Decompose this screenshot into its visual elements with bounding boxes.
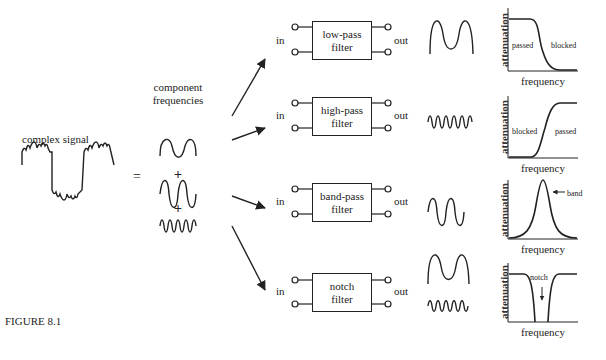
low-pass-out-label: out: [394, 34, 408, 47]
band-pass-filter-box: band-pass filter: [312, 183, 372, 222]
notch-ylabel: attenuation: [498, 257, 510, 327]
output-wave-notch-high: [428, 301, 468, 312]
output-wave-band-pass: [428, 199, 464, 226]
low-pass-ylabel: attenuation: [498, 5, 510, 75]
output-wave-notch-low: [428, 255, 469, 284]
band-pass-band-label: band: [567, 187, 583, 200]
arrow-to-notch: [232, 226, 265, 290]
component-wave-low: [160, 139, 196, 157]
low-pass-passed-label: passed: [512, 39, 533, 52]
equals-sign: =: [133, 170, 141, 183]
low-pass-filter-label-1: low-pass: [322, 28, 361, 41]
notch-in-label: in: [276, 285, 285, 298]
high-pass-filter-box: high-pass filter: [312, 97, 372, 136]
band-pass-out-label: out: [394, 195, 408, 208]
complex-signal-wave: [22, 142, 114, 200]
low-pass-xlabel: frequency: [508, 75, 578, 88]
band-pass-ylabel: attenuation: [498, 175, 510, 245]
band-pass-in-label: in: [276, 195, 285, 208]
output-wave-high-pass: [428, 116, 472, 128]
high-pass-filter-label-1: high-pass: [321, 104, 363, 117]
notch-filter-box: notch filter: [312, 273, 372, 312]
notch-filter-label-2: filter: [331, 293, 352, 306]
output-wave-low-pass: [430, 21, 473, 54]
band-pass-filter-label-2: filter: [331, 203, 352, 216]
notch-annotation-label: notch: [530, 271, 548, 284]
notch-filter-label-1: notch: [330, 280, 354, 293]
notch-xlabel: frequency: [508, 326, 578, 339]
high-pass-filter-label-2: filter: [331, 117, 352, 130]
complex-signal-label: complex signal: [22, 133, 89, 146]
band-pass-filter-label-1: band-pass: [320, 190, 364, 203]
high-pass-out-label: out: [394, 109, 408, 122]
low-pass-blocked-label: blocked: [551, 39, 576, 52]
notch-out-label: out: [394, 285, 408, 298]
arrow-to-high-pass: [232, 128, 265, 140]
plus-sign-2: +: [174, 202, 182, 215]
figure-label: FIGURE 8.1: [5, 315, 61, 328]
high-pass-in-label: in: [276, 109, 285, 122]
low-pass-in-label: in: [276, 34, 285, 47]
component-wave-high: [160, 220, 196, 232]
high-pass-blocked-label: blocked: [512, 125, 537, 138]
component-frequencies-label-2: frequencies: [146, 94, 210, 107]
high-pass-xlabel: frequency: [508, 162, 578, 175]
plus-sign-1: +: [174, 168, 182, 181]
low-pass-filter-label-2: filter: [331, 41, 352, 54]
arrow-to-low-pass: [232, 59, 265, 116]
arrow-to-band-pass: [232, 196, 265, 208]
component-frequencies-label-1: component: [146, 81, 210, 94]
high-pass-passed-label: passed: [555, 125, 576, 138]
high-pass-ylabel: attenuation: [498, 92, 510, 162]
low-pass-filter-box: low-pass filter: [312, 21, 372, 60]
diagram-graphics: [0, 0, 606, 360]
band-pass-xlabel: frequency: [508, 243, 578, 256]
